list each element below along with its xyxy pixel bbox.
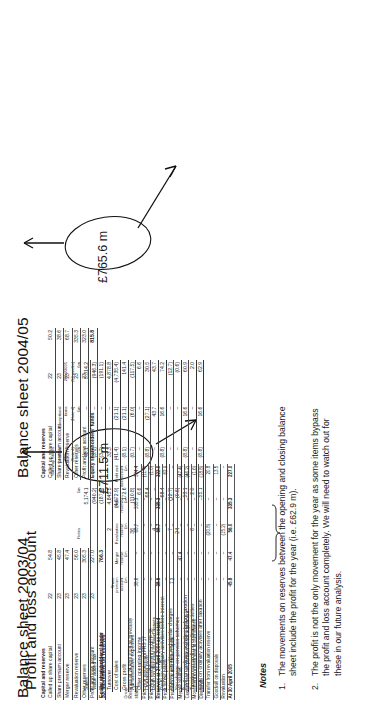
movement-row-value: (20.8) [206,522,213,550]
bs2005-body: Capital and reservesCalled up share capi… [40,328,97,480]
movement-col-4: Otherreserves£m [111,496,128,522]
movement-on-reserves-section: 33. Movement on reserves Group Share pre… [100,464,235,700]
movement-row: Transfer from revaluation reserve––(20.8… [206,464,213,700]
pl-row-value: 74.2 [158,360,166,405]
movement-col-2: Mergerreserve£m [111,550,128,576]
movement-row-value: 335.3 [228,496,235,522]
movement-row-value: – [163,550,170,576]
movement-row-value: – [170,522,177,550]
movement-row-value: – [156,550,163,576]
bs-row-value: 323.0 [81,328,89,364]
movement-row-value: – [163,576,170,604]
bs-row-note: 23 [81,364,89,388]
bs-row-value: 47.4 [64,548,72,584]
movement-row-value: 68.7 [156,522,163,550]
bs-row-note: 23 [72,584,80,608]
movement-row: Reserves at 24 April 2004 as restated38.… [156,464,163,700]
pl-row-value: – [166,405,174,445]
note-text: The movements on reserves between the op… [277,405,300,676]
bs-row-note: 23 [72,364,80,388]
movement-row-value: (46.2) [184,464,191,496]
bs-row: Revaluation reserve2368.7 [64,328,72,480]
document-page: Profit and loss account Notes £m Safeway… [0,0,366,707]
movement-row-value: – [184,550,191,576]
movement-row-value: 38.6 [128,576,141,604]
pl-row-value: (0.6) [174,360,182,405]
movement-row-value: (18.8) [199,464,206,496]
movement-row-value: – [148,550,155,576]
movement-row-label: Prior year restatement for UITF 38 [148,604,155,700]
pl-row-value: (21.1) [113,405,121,445]
movement-row: Premium on new share capital7.2–––– [170,464,177,700]
movement-row-value: 45.8 [228,576,235,604]
pl-row-value: (27.1) [143,405,151,445]
pl-row-value: (4,735.4) [113,360,121,405]
bs-row-value: 45.8 [55,548,63,584]
bs-row: Called up share capital2254.8 [47,548,55,700]
bs-row: Called up share capital2250.2 [47,328,55,480]
bs-row: Other reserves23335.3 [72,328,80,480]
pl-row-value: – [189,405,197,445]
movement-row-value: – [184,522,191,550]
bs-row-value: 305.3 [81,548,89,584]
movement-row: Current year net pension deficit adjustm… [184,464,191,700]
pl-row-value: 16.6 [196,405,204,445]
movement-row-value: 227.0 [228,464,235,496]
pl-row-value: – [136,405,144,445]
movement-row-value: 47.4 [177,550,184,576]
pl-row-value: – [174,405,182,445]
pl-row-value: 60.9 [181,360,189,405]
movement-row-value: 47.4 [228,550,235,576]
movement-row-value: – [220,496,227,522]
bs-row-label: Merger reserve [64,608,72,700]
bs-section-label: Capital and reserves [40,548,47,700]
pl-col-1: £m [76,488,83,524]
movement-row-value: 322.0 [156,464,163,496]
movement-row-value: 20.8 [206,464,213,496]
movement-row-value: (1.0) [148,464,155,496]
bs-row-value: 227.0 [89,548,97,584]
bs-row-note: 22 [47,364,55,388]
movement-row: Profit for the period––––62.9 [163,464,170,700]
movement-row: Merger reserve–47.4––(47.4) [177,464,184,700]
movement-row-value: – [163,522,170,550]
movement-row-value: (15.2) [220,522,227,550]
bs-row: Profit and loss account23323.0 [81,328,89,480]
bs-row-note: 23 [81,584,89,608]
movement-row-value: – [141,496,148,522]
pl-row-value: 62.9 [196,360,204,405]
movement-row-value: – [213,576,220,604]
bs-row-note: 22 [47,584,55,608]
movement-row-value: 62.9 [163,464,170,496]
bs-row-note: 23 [55,584,63,608]
movement-row-label: At 30 April 2005 [228,604,235,700]
movement-row-value: – [141,550,148,576]
movement-row: Goodwill on disposals––––13.5 [213,464,220,700]
bs-row-value: 50.2 [47,328,55,364]
movement-row-value: (47.4) [177,464,184,496]
movement-row-value: – [206,576,213,604]
movement-row-label: Profit for the period [163,604,170,700]
callout-bottom-label: £711.5 m [97,443,111,494]
movement-row-value: – [206,550,213,576]
bs-row-value: 56.0 [72,548,80,584]
bs-row: Merger reserve2347.4 [64,548,72,700]
movement-row-label: Merger reserve [177,604,184,700]
movement-row-value: – [220,550,227,576]
movement-row-value: – [199,522,206,550]
movement-row-value: 335.3 [128,496,141,522]
bs-row-label: Profit and loss account [89,608,97,700]
movement-row-value: (1.6) [192,464,199,496]
movement-col-1: Share premiumaccount£m [111,576,128,604]
movement-row: At 30 April 200545.847.456.0335.3227.0 [228,464,235,700]
movement-row-value: – [213,496,220,522]
note-item: 1.The movements on reserves between the … [277,405,300,690]
bs-section-label-row: Capital and reserves [40,548,47,700]
pl-row-value: 4,878.8 [105,360,113,405]
movement-row-value: – [177,496,184,522]
pl-row-value: 6.6 [136,360,144,405]
pl-row-value: – [98,405,106,445]
movement-row-value: – [192,522,199,550]
balance-sheet-2004-table: Capital and reservesCalled up share capi… [40,548,106,700]
bs-row-value: 68.7 [64,328,72,364]
